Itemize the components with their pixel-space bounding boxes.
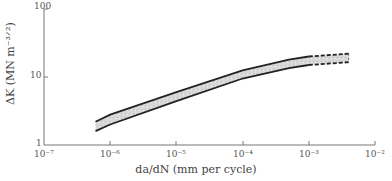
x-tick-1e-7: 10⁻⁷ <box>34 149 54 159</box>
y-tick-100: 100 <box>34 1 51 11</box>
y-tick-1: 1 <box>36 138 42 148</box>
x-tick-1e-6: 10⁻⁶ <box>100 149 120 159</box>
y-axis-label: ΔK (MN m⁻³ᐟ²) <box>4 22 17 105</box>
data-band <box>96 54 349 131</box>
x-axis-label: da/dN (mm per cycle) <box>0 163 392 176</box>
x-tick-1e-4: 10⁻⁴ <box>233 149 253 159</box>
x-tick-1e-3: 10⁻³ <box>299 149 319 159</box>
axes <box>44 9 375 145</box>
x-tick-1e-5: 10⁻⁵ <box>166 149 186 159</box>
y-tick-10: 10 <box>30 70 41 80</box>
x-tick-1e-2: 10⁻² <box>365 149 385 159</box>
chart-plot-area <box>0 0 392 181</box>
